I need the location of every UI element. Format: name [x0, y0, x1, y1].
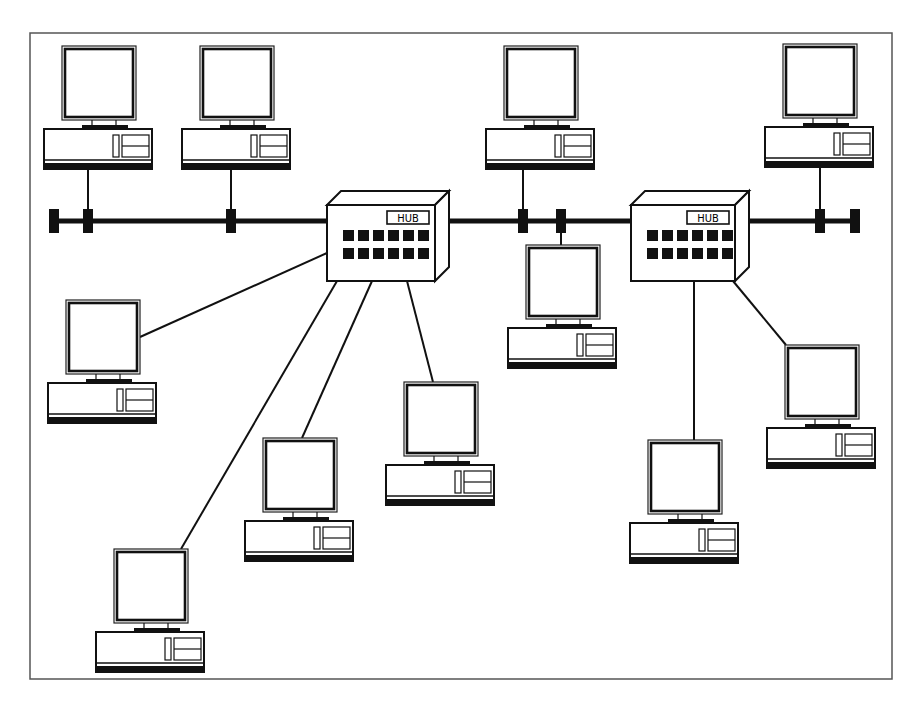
computer-workstation — [508, 245, 616, 368]
hub-port — [647, 230, 658, 241]
hub-label: HUB — [397, 212, 419, 225]
hub-port — [403, 248, 414, 259]
hub-port — [677, 248, 688, 259]
computer-workstation — [245, 438, 353, 561]
hub-port — [403, 230, 414, 241]
network-diagram: HUBHUB — [0, 0, 917, 704]
hub-port — [358, 248, 369, 259]
bus-tap-connector — [226, 209, 236, 233]
hub-port — [677, 230, 688, 241]
hub-port — [373, 230, 384, 241]
hub-port — [388, 248, 399, 259]
hub-port — [343, 248, 354, 259]
network-cable — [302, 281, 372, 438]
bus-tap-connector — [49, 209, 59, 233]
bus-tap-connector — [850, 209, 860, 233]
hub-port — [707, 248, 718, 259]
hub-port — [358, 230, 369, 241]
hub-port — [373, 248, 384, 259]
hub-port — [418, 230, 429, 241]
computer-workstation — [765, 44, 873, 167]
hub-port — [647, 248, 658, 259]
computer-workstation — [630, 440, 738, 563]
network-cable — [733, 281, 786, 345]
computer-workstation — [48, 300, 156, 423]
computer-workstation — [182, 46, 290, 169]
hub-port — [707, 230, 718, 241]
hub-port — [662, 248, 673, 259]
computer-workstation — [96, 549, 204, 672]
hub-port — [388, 230, 399, 241]
hub-label: HUB — [697, 212, 719, 225]
network-cable — [407, 281, 433, 382]
bus-tap-connector — [518, 209, 528, 233]
hub-1: HUB — [327, 191, 449, 281]
hub-port — [662, 230, 673, 241]
hub-port — [722, 230, 733, 241]
hub-2: HUB — [631, 191, 749, 281]
computers — [44, 44, 875, 672]
hub-port — [692, 230, 703, 241]
bus-tap-connector — [815, 209, 825, 233]
bus-tap-connector — [83, 209, 93, 233]
hub-port — [722, 248, 733, 259]
hub-port — [692, 248, 703, 259]
bus-tap-connector — [556, 209, 566, 233]
network-cable — [140, 253, 327, 337]
computer-workstation — [386, 382, 494, 505]
computer-workstation — [486, 46, 594, 169]
hub-port — [343, 230, 354, 241]
hub-port — [418, 248, 429, 259]
computer-workstation — [44, 46, 152, 169]
computer-workstation — [767, 345, 875, 468]
